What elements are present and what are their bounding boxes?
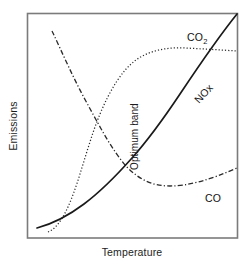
series-label-nox: NOx <box>192 81 216 105</box>
annotation-optimum-band: Optimum band <box>129 103 140 170</box>
series-label-co2-subscript: 2 <box>203 37 207 46</box>
curve-co2 <box>48 48 237 232</box>
y-axis-title: Emissions <box>7 101 19 150</box>
series-label-co2-main: CO <box>187 31 203 43</box>
x-axis-title: Temperature <box>102 246 163 258</box>
curve-co <box>52 31 237 186</box>
series-label-co: CO <box>205 192 221 204</box>
chart-svg: Emissions Temperature Optimum band CO2 N… <box>0 0 251 267</box>
series-label-co2: CO2 <box>187 31 208 46</box>
emissions-temperature-chart: Emissions Temperature Optimum band CO2 N… <box>0 0 251 267</box>
